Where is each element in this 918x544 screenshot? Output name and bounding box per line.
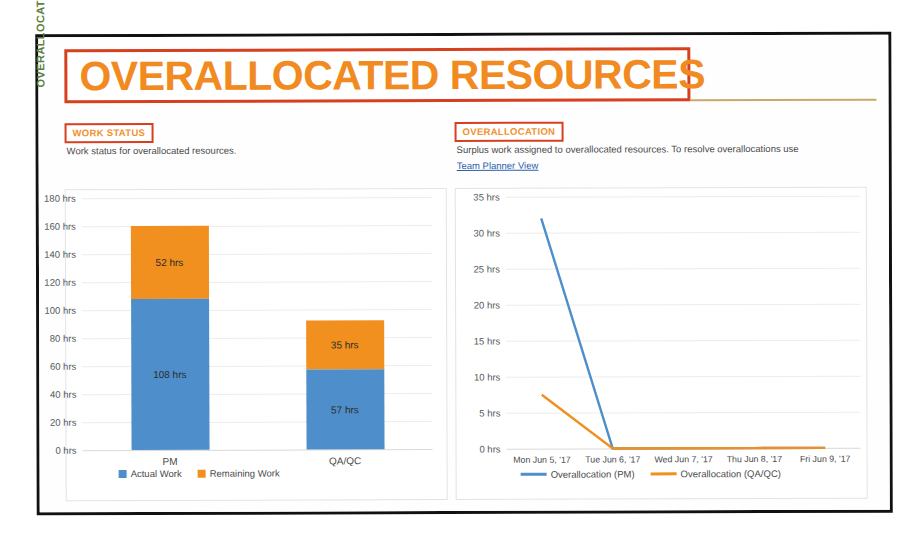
x-axis-category-label: QA/QC [290, 455, 400, 467]
y-axis-tick-label: 160 hrs [24, 221, 76, 232]
x-axis-date-label: Wed Jun 7, '17 [648, 454, 720, 464]
legend-swatch-1 [119, 470, 127, 478]
y-axis-tick-label: 120 hrs [24, 277, 76, 288]
work-status-x-axis-labels: PMQA/QC [66, 189, 446, 190]
legend-label: Actual Work [131, 468, 182, 479]
bar-segment-remaining-work: 35 hrs [306, 320, 384, 369]
x-axis-date-label: Thu Jun 8, '17 [718, 454, 790, 464]
y-axis-tick-label: 100 hrs [24, 305, 76, 316]
overallocation-chart-panel: 35 hrs30 hrs25 hrs20 hrs15 hrs10 hrs5 hr… [455, 187, 868, 500]
legend-item: Actual Work [119, 468, 182, 479]
overallocation-description: Surplus work assigned to overallocated r… [457, 143, 799, 155]
line-pm [541, 217, 825, 448]
work-status-legend: Actual WorkRemaining Work [119, 468, 280, 480]
legend-item: Overallocation (QA/QC) [651, 468, 781, 479]
team-planner-view-link[interactable]: Team Planner View [457, 160, 539, 171]
legend-label: Overallocation (QA/QC) [681, 468, 781, 479]
overallocation-legend: Overallocation (PM)Overallocation (QA/QC… [521, 468, 781, 480]
legend-item: Overallocation (PM) [521, 468, 635, 479]
overallocation-line-series [464, 196, 861, 451]
x-axis-date-label: Mon Jun 5, '17 [506, 455, 578, 465]
legend-item: Remaining Work [198, 468, 280, 479]
bar-segment-actual-work: 108 hrs [131, 299, 209, 450]
legend-label: Remaining Work [210, 468, 280, 479]
page-title: OVERALLOCATED RESOURCES [67, 54, 705, 97]
line-qa-qc [542, 394, 825, 449]
legend-label: Overallocation (PM) [551, 468, 635, 479]
legend-line-swatch-2 [651, 472, 677, 475]
title-divider-rule [690, 99, 876, 102]
y-axis-tick-label: 0 hrs [25, 445, 77, 456]
work-status-vertical-axis-title: OVERALLOCATED RESOURCES [34, 0, 47, 97]
work-status-plot-area: 180 hrs160 hrs140 hrs120 hrs100 hrs80 hr… [82, 197, 433, 450]
page-title-box: OVERALLOCATED RESOURCES [64, 47, 690, 103]
y-axis-tick-label: 40 hrs [24, 389, 76, 400]
x-axis-category-label: PM [115, 456, 225, 468]
y-axis-tick-label: 180 hrs [24, 193, 76, 204]
legend-line-swatch-1 [521, 473, 547, 476]
y-axis-tick-label: 80 hrs [24, 333, 76, 344]
work-status-tag: WORK STATUS [65, 123, 154, 143]
y-axis-tick-label: 20 hrs [24, 417, 76, 428]
bar-segment-remaining-work: 52 hrs [130, 226, 208, 299]
legend-swatch-2 [198, 469, 206, 477]
bar-segment-actual-work: 57 hrs [306, 369, 384, 449]
y-axis-tick-label: 60 hrs [24, 361, 76, 372]
x-axis-date-label: Fri Jun 9, '17 [789, 454, 861, 464]
gridline [82, 197, 432, 199]
overallocation-x-axis-labels: Mon Jun 5, '17Tue Jun 6, '17Wed Jun 7, '… [456, 188, 866, 189]
overallocation-plot-area: 35 hrs30 hrs25 hrs20 hrs15 hrs10 hrs5 hr… [464, 196, 861, 449]
report-page-frame: OVERALLOCATED RESOURCES WORK STATUS Work… [35, 32, 893, 516]
y-axis-tick-label: 140 hrs [24, 249, 76, 260]
x-axis-date-label: Tue Jun 6, '17 [577, 454, 649, 464]
report-sheet: OVERALLOCATED RESOURCES WORK STATUS Work… [38, 35, 889, 513]
work-status-description: Work status for overallocated resources. [67, 145, 237, 157]
overallocation-tag: OVERALLOCATION [455, 122, 564, 142]
work-status-chart-panel: 180 hrs160 hrs140 hrs120 hrs100 hrs80 hr… [65, 188, 448, 501]
